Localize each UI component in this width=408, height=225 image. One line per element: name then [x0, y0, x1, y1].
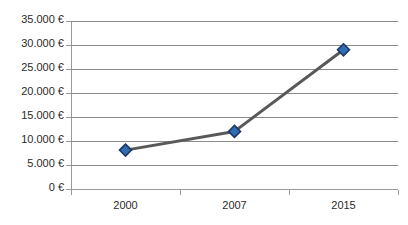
x-axis-tick [180, 190, 181, 195]
x-axis-tick-label: 2015 [331, 199, 355, 211]
series-line-and-markers [0, 0, 408, 225]
y-axis-tick [66, 45, 71, 46]
y-axis-tick [66, 141, 71, 142]
data-point-marker [120, 144, 132, 156]
y-axis-tick [66, 21, 71, 22]
line-chart: 0 €5.000 €10.000 €15.000 €20.000 €25.000… [0, 0, 408, 225]
y-axis-tick [66, 117, 71, 118]
y-axis-tick [66, 69, 71, 70]
x-axis-tick [289, 190, 290, 195]
y-axis-tick [66, 93, 71, 94]
y-axis-tick [66, 165, 71, 166]
x-axis-tick-label: 2007 [222, 199, 246, 211]
x-axis-tick [71, 190, 72, 195]
x-axis-tick [398, 190, 399, 195]
x-axis-tick-label: 2000 [113, 199, 137, 211]
